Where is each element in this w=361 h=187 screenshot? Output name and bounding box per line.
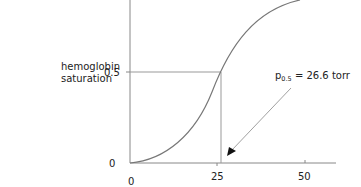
x-tick-label-50: 50	[298, 171, 311, 182]
p50-value: = 26.6 torr	[292, 70, 350, 81]
x-tick-label-0: 0	[128, 176, 134, 187]
annotation-arrowhead-icon	[227, 147, 236, 156]
y-tick-label-0: 0	[109, 158, 115, 169]
annotation-arrow-line	[232, 88, 291, 150]
p50-subscript: 0.5	[281, 75, 291, 83]
y-tick-label-0.5: 0.5	[104, 67, 120, 78]
x-tick-label-25: 25	[211, 171, 224, 182]
p50-annotation: p0.5 = 26.6 torr	[275, 70, 350, 85]
chart-canvas	[0, 0, 361, 187]
